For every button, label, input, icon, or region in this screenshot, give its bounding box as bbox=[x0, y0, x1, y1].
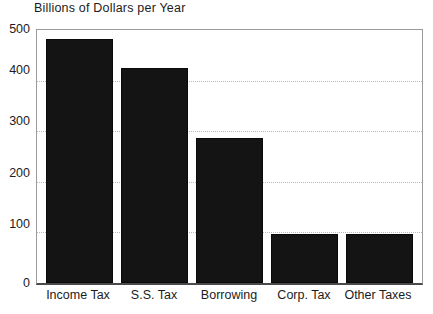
bar-income-tax bbox=[46, 39, 113, 283]
y-tick-label-200: 200 bbox=[0, 166, 30, 180]
bar-corp-tax bbox=[271, 234, 338, 283]
x-tick-label-other-taxes: Other Taxes bbox=[328, 288, 428, 302]
x-axis: Income Tax S.S. Tax Borrowing Corp. Tax … bbox=[36, 288, 423, 312]
bar-ss-tax bbox=[121, 68, 188, 283]
y-tick-label-500: 500 bbox=[0, 22, 30, 36]
bar-other-taxes bbox=[346, 234, 413, 283]
bar-borrowing bbox=[196, 138, 263, 283]
chart-title: Billions of Dollars per Year bbox=[34, 1, 186, 15]
y-tick-label-0: 0 bbox=[0, 276, 30, 290]
y-tick-label-400: 400 bbox=[0, 63, 30, 77]
plot-area bbox=[36, 29, 423, 285]
plot-inner bbox=[37, 30, 422, 283]
y-tick-label-300: 300 bbox=[0, 114, 30, 128]
bar-chart: Billions of Dollars per Year 500 400 300… bbox=[0, 0, 433, 314]
y-tick-label-100: 100 bbox=[0, 217, 30, 231]
